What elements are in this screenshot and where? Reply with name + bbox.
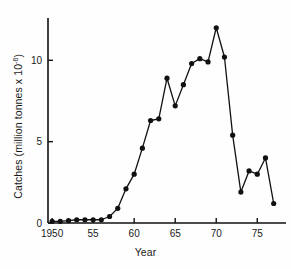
- x-tick-label: 1950: [41, 228, 64, 239]
- y-axis-label-suffix: ): [12, 54, 24, 58]
- data-point-marker: [123, 186, 128, 191]
- data-point-marker: [74, 217, 79, 222]
- y-axis-label-exponent: -6: [12, 57, 19, 63]
- data-point-marker: [246, 168, 251, 173]
- data-point-marker: [263, 155, 268, 160]
- data-point-marker: [156, 116, 161, 121]
- x-tick-label: 60: [129, 228, 141, 239]
- y-tick-label: 5: [36, 136, 42, 147]
- x-tick-label: 65: [170, 228, 182, 239]
- y-tick-label: 0: [36, 218, 42, 229]
- x-axis-ticks: 19505560657075: [41, 218, 263, 239]
- data-point-marker: [214, 25, 219, 30]
- y-tick-label: 10: [31, 55, 43, 66]
- data-point-marker: [164, 76, 169, 81]
- data-point-marker: [50, 219, 55, 224]
- data-point-marker: [255, 172, 260, 177]
- data-point-marker: [271, 201, 276, 206]
- data-point-marker: [189, 61, 194, 66]
- data-point-marker: [197, 56, 202, 61]
- y-axis-ticks: 0510: [31, 55, 53, 229]
- data-point-marker: [91, 217, 96, 222]
- catches-series-markers: [50, 25, 277, 224]
- x-tick-label: 75: [252, 228, 264, 239]
- data-point-marker: [140, 146, 145, 151]
- data-point-marker: [238, 189, 243, 194]
- data-point-marker: [82, 217, 87, 222]
- data-point-marker: [173, 103, 178, 108]
- data-point-marker: [107, 214, 112, 219]
- chart-figure: 0510 19505560657075 Catches (million ton…: [0, 0, 291, 269]
- axes-group: [48, 18, 286, 223]
- x-axis-label: Year: [0, 246, 291, 258]
- x-tick-label: 70: [211, 228, 223, 239]
- data-point-marker: [115, 206, 120, 211]
- data-point-marker: [205, 59, 210, 64]
- y-axis-label-prefix: Catches (million tonnes x 10: [12, 64, 24, 199]
- data-point-marker: [132, 172, 137, 177]
- data-point-marker: [230, 133, 235, 138]
- data-point-marker: [222, 54, 227, 59]
- x-tick-label: 55: [88, 228, 100, 239]
- data-point-marker: [181, 82, 186, 87]
- data-point-marker: [99, 217, 104, 222]
- y-axis-label: Catches (million tonnes x 10-6): [12, 46, 25, 206]
- data-point-marker: [58, 219, 63, 224]
- data-point-marker: [148, 118, 153, 123]
- catches-line-chart: 0510 19505560657075: [0, 0, 291, 269]
- data-point-marker: [66, 218, 71, 223]
